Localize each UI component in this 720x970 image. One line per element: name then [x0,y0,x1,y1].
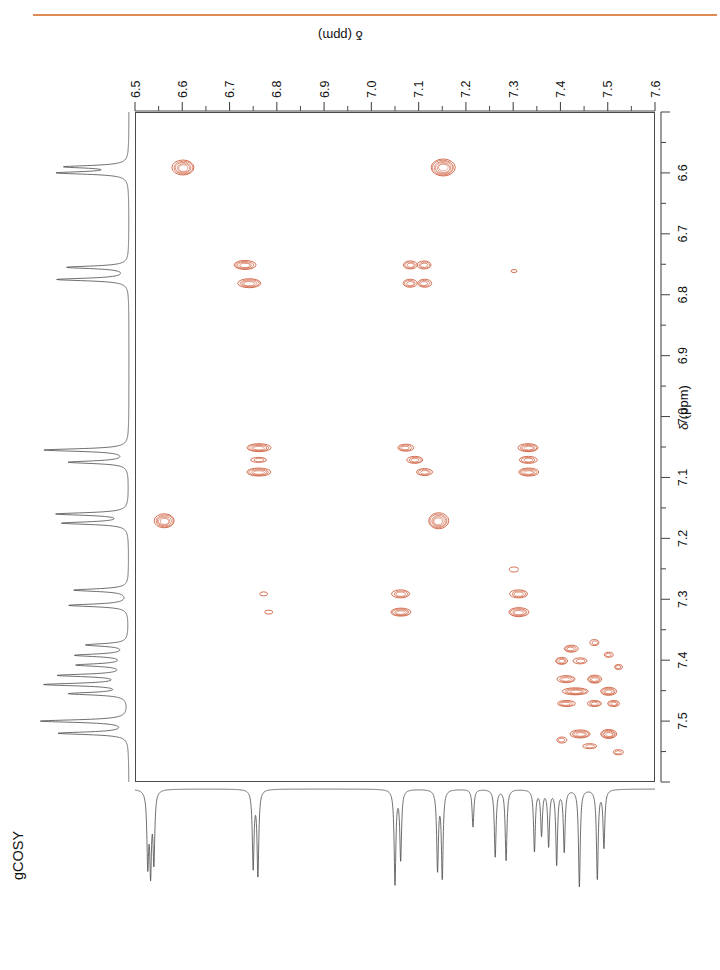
top-axis-tick-label: 6.5 [129,81,143,98]
cross-peak [564,645,578,652]
cross-peak [238,279,261,288]
cross-peak [247,468,271,476]
right-axis-tick-label: 7.1 [676,469,690,486]
right-axis-tick-label: 6.6 [676,164,690,181]
cross-peak [570,730,590,738]
cross-peak [604,652,613,657]
cross-peak [265,610,273,614]
cross-peak [429,513,449,529]
cross-peak [251,457,267,462]
experiment-label: gCOSY [10,831,26,880]
cross-peak [260,592,268,596]
top-axis-tick-label: 6.6 [176,81,190,98]
cross-peak [154,514,174,528]
cross-peak [615,664,623,669]
cross-peak [608,700,620,706]
top-axis-tick-label: 7.5 [601,81,615,98]
cross-peak [590,640,599,646]
f1-projection-path [40,112,129,782]
cross-peak [518,444,538,452]
f2-projection-trace [135,783,655,898]
right-axis: 6.66.76.86.97.07.17.27.37.47.5 [655,112,719,782]
cross-peak [510,590,528,598]
right-axis-tick-label: 6.7 [676,225,690,242]
right-axis-tick-label: 6.9 [676,347,690,364]
cross-peak [417,469,433,476]
cross-peak [601,687,617,695]
cross-peak [557,676,575,683]
f1-projection-trace [20,112,135,782]
top-axis-tick-label: 7.1 [412,81,426,98]
cross-peak [431,159,455,176]
cross-peak [587,700,601,706]
cross-peak [403,261,417,269]
cross-peak [519,456,537,463]
cross-peak [398,444,414,451]
top-axis-tick-label: 7.2 [459,81,473,98]
cross-peak [613,750,623,755]
right-axis-tick-label: 7.2 [676,530,690,547]
nmr-spectrum-page: δ (ppm) 6.56.66.76.86.97.07.17.27.37.47.… [0,0,720,970]
top-axis-tick-label: 6.7 [223,81,237,98]
cross-peak [519,468,539,476]
cross-peak [172,160,194,175]
cross-peak [234,260,256,269]
cross-peak [573,658,587,664]
contour-plot-area[interactable] [135,112,655,782]
cross-peak [588,675,602,683]
cross-peak [556,657,568,664]
right-axis-tick-label: 7.4 [676,651,690,668]
right-axis-title: δ (ppm) [676,385,691,430]
f2-projection-path [135,789,655,887]
cross-peak [403,279,417,287]
cross-peak [407,456,423,463]
cross-peak [511,270,517,273]
top-axis-tick-label: 7.0 [365,81,379,98]
top-axis-tick-label: 7.3 [507,81,521,98]
right-axis-tick-label: 7.3 [676,591,690,608]
cross-peak [509,567,518,572]
right-axis-tick-label: 7.5 [676,712,690,729]
right-axis-tick-label: 6.8 [676,286,690,303]
top-axis-tick-label: 6.8 [270,81,284,98]
top-axis-title: δ (ppm) [318,28,363,43]
cross-peak [509,608,529,617]
top-axis-tick-label: 6.9 [318,81,332,98]
cross-peak [247,444,271,452]
cross-peak [392,590,410,598]
cross-peak [417,261,431,269]
cross-peak [601,729,617,738]
header-rule [33,14,717,16]
cross-peak [562,688,588,695]
top-axis: 6.56.66.76.86.97.07.17.27.37.47.57.6 [135,60,655,112]
cross-peak [557,737,567,743]
top-axis-tick-label: 7.6 [649,81,663,98]
cross-peak [391,608,411,616]
cross-peak [558,700,576,706]
cross-peak [583,744,597,749]
top-axis-tick-label: 7.4 [554,81,568,98]
cross-peak [418,279,432,287]
